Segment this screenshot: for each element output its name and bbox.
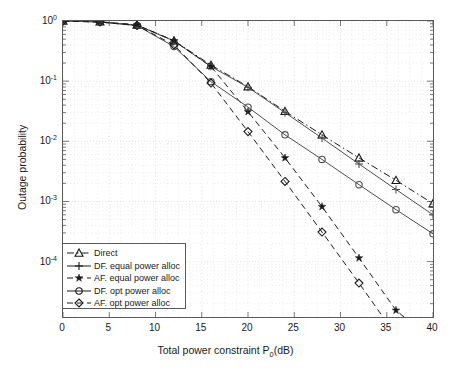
legend-item-df-equal-power-alloc[interactable]: DF. equal power alloc bbox=[66, 260, 185, 272]
x-tick-label: 20 bbox=[227, 323, 267, 333]
legend-label: Direct bbox=[94, 248, 118, 258]
y-tick-label: 10-4 bbox=[40, 255, 57, 267]
legend-label: DF. equal power alloc bbox=[94, 261, 180, 271]
marker-triangle bbox=[429, 200, 433, 207]
x-tick-label: 0 bbox=[42, 323, 82, 333]
x-tick-label: 40 bbox=[412, 323, 451, 333]
legend-item-direct[interactable]: Direct bbox=[66, 247, 185, 259]
legend-item-df-opt-power-alloc[interactable]: DF. opt power alloc bbox=[66, 285, 185, 297]
marker-diamond bbox=[355, 279, 363, 287]
x-tick-label: 25 bbox=[273, 323, 313, 333]
y-tick-label: 10-2 bbox=[40, 134, 57, 146]
x-tick-label: 15 bbox=[181, 323, 221, 333]
star-icon bbox=[66, 272, 92, 284]
marker-triangle bbox=[392, 176, 400, 183]
y-axis-label: Outage probability bbox=[16, 125, 28, 210]
figure: 10010-110-210-310-4 0510152025303540 Out… bbox=[0, 0, 451, 373]
x-axis-label: Total power constraint P0(dB) bbox=[0, 344, 451, 359]
plus-icon bbox=[66, 260, 92, 272]
diamond-icon bbox=[66, 297, 92, 309]
x-axis-label-unit: (dB) bbox=[274, 344, 294, 356]
y-tick-label: 10-3 bbox=[40, 194, 57, 206]
legend-label: AF. opt power alloc bbox=[94, 298, 170, 308]
y-tick-label: 100 bbox=[42, 14, 57, 26]
x-tick-label: 10 bbox=[135, 323, 175, 333]
y-tick-label: 10-1 bbox=[40, 74, 57, 86]
triangle-icon bbox=[66, 247, 92, 259]
legend-item-af-opt-power-alloc[interactable]: AF. opt power alloc bbox=[66, 297, 185, 309]
legend-label: DF. opt power alloc bbox=[94, 286, 171, 296]
series-0 bbox=[63, 21, 433, 207]
marker-star bbox=[355, 254, 363, 261]
marker-star bbox=[75, 274, 83, 281]
x-tick-label: 35 bbox=[366, 323, 406, 333]
series-3 bbox=[63, 21, 433, 237]
legend-label: AF. equal power alloc bbox=[94, 273, 180, 283]
circle-icon bbox=[66, 285, 92, 297]
legend-item-af-equal-power-alloc[interactable]: AF. equal power alloc bbox=[66, 272, 185, 284]
x-axis-label-main: Total power constraint P bbox=[157, 344, 269, 356]
marker-plus bbox=[75, 262, 83, 270]
marker-plus bbox=[392, 186, 400, 194]
chart-legend: DirectDF. equal power allocAF. equal pow… bbox=[62, 243, 186, 309]
x-tick-label: 5 bbox=[88, 323, 128, 333]
x-tick-label: 30 bbox=[320, 323, 360, 333]
